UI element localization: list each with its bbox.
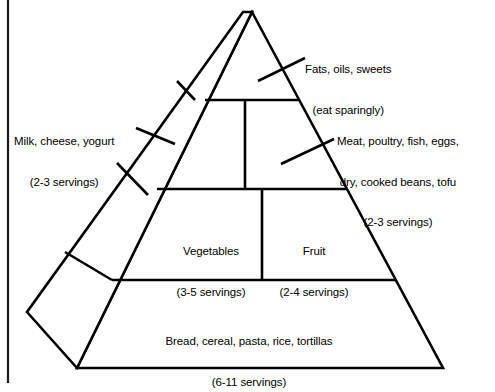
label-fats-line1: Fats, oils, sweets [305, 63, 391, 77]
label-milk-line1: Milk, cheese, yogurt [14, 135, 114, 149]
label-vegetables-line2: (3-5 servings) [163, 286, 259, 300]
label-bread-line2: (6-11 servings) [131, 376, 367, 390]
label-vegetables-line1: Vegetables [163, 245, 259, 259]
label-fruit-line1: Fruit [268, 245, 360, 259]
label-milk-cheese-yogurt: Milk, cheese, yogurt (2-3 servings) [14, 108, 114, 216]
label-fruit-line2: (2-4 servings) [268, 286, 360, 300]
label-bread-line1: Bread, cereal, pasta, rice, tortillas [131, 335, 367, 349]
label-bread-cereal-pasta: Bread, cereal, pasta, rice, tortillas (6… [131, 308, 367, 392]
label-milk-line2: (2-3 servings) [14, 176, 114, 190]
label-meat-line1: Meat, poultry, fish, eggs, [337, 135, 459, 149]
label-meat-line2: dry, cooked beans, tofu [337, 176, 459, 190]
